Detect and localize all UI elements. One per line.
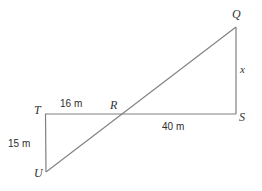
vertex-label-R: R: [110, 99, 117, 111]
vertex-label-T: T: [34, 104, 41, 116]
segment-TU: [46, 114, 47, 172]
geometry-diagram: T R S Q U 16 m 40 m 15 m x: [0, 0, 262, 191]
vertex-label-U: U: [34, 167, 43, 179]
measure-label-RS: 40 m: [162, 122, 184, 132]
measure-label-TU: 15 m: [8, 139, 30, 149]
vertex-label-S: S: [239, 111, 245, 123]
measure-label-TR: 16 m: [60, 99, 82, 109]
vertex-label-Q: Q: [232, 8, 241, 20]
geometry-figure-svg: [0, 0, 262, 191]
measure-label-QS: x: [240, 64, 245, 75]
